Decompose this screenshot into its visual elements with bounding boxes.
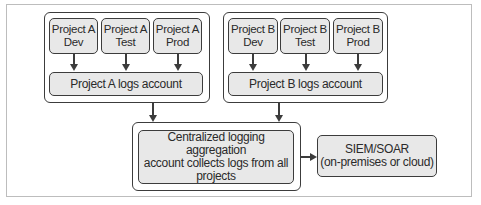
project-a-test-node: Project A Test [101,18,150,54]
arrow-down-icon [249,64,257,71]
arrow-down-icon [122,64,130,71]
siem-soar-node: SIEM/SOAR (on-premises or cloud) [317,135,437,177]
project-b-test-node: Project B Test [280,18,330,54]
arrow-down-icon [174,64,182,71]
arrow-down-icon [302,64,310,71]
arrow-down-icon [354,64,362,71]
central-logging-account: Centralized logging aggregation account … [138,130,294,184]
project-a-dev-node: Project A Dev [49,18,98,54]
project-a-logs-account: Project A logs account [49,72,203,96]
project-b-logs-account: Project B logs account [228,72,383,96]
arrow-down-icon [70,64,78,71]
arrow-down-icon [149,115,157,122]
project-b-prod-node: Project B Prod [333,18,383,54]
project-a-prod-node: Project A Prod [153,18,202,54]
project-b-dev-node: Project B Dev [228,18,278,54]
arrow-right-icon [310,153,317,161]
arrow-down-icon [275,115,283,122]
